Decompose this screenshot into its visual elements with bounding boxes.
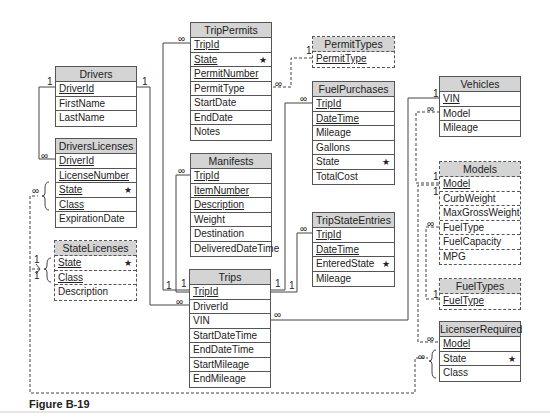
field-tripid[interactable]: TripId xyxy=(190,285,270,300)
field-state[interactable]: State★ xyxy=(313,155,394,170)
table-header: PermitTypes xyxy=(313,37,394,52)
card-one-fueltypes: 1 xyxy=(433,290,439,300)
field-mileage[interactable]: Mileage xyxy=(313,126,394,141)
field-delivereddatetime[interactable]: DeliveredDateTime xyxy=(191,242,271,257)
card-one-trips-b: 1 xyxy=(181,279,187,289)
field-enteredstate[interactable]: EnteredState★ xyxy=(313,257,394,272)
card-many-trips-vin: ∞ xyxy=(274,310,281,320)
bracket-statelicenses-state-class xyxy=(44,258,51,282)
card-many-driverslicenses: ∞ xyxy=(41,151,48,161)
table-vehicles[interactable]: Vehicles VIN Model Mileage xyxy=(439,76,521,137)
field-class[interactable]: Class xyxy=(56,198,136,213)
table-drivers-licenses[interactable]: DriversLicenses DriverId LicenseNumber S… xyxy=(55,138,137,228)
table-manifests[interactable]: Manifests TripId ItemNumber Description … xyxy=(190,153,272,257)
field-mpg[interactable]: MPG xyxy=(440,250,520,265)
card-one-trips-c: 1 xyxy=(275,279,281,289)
field-class[interactable]: Class xyxy=(440,366,520,381)
field-state[interactable]: State★ xyxy=(56,183,136,198)
field-datetime[interactable]: DateTime xyxy=(313,243,394,258)
field-mileage[interactable]: Mileage xyxy=(440,121,520,136)
table-header: StateLicenses xyxy=(55,241,136,256)
field-state[interactable]: State★ xyxy=(55,256,136,271)
card-many-trips-driverid: ∞ xyxy=(176,297,183,307)
field-state[interactable]: State★ xyxy=(440,352,520,367)
field-tripid[interactable]: TripId xyxy=(313,97,394,112)
field-gallons[interactable]: Gallons xyxy=(313,141,394,156)
table-header: DriversLicenses xyxy=(56,139,136,154)
card-one-drivers-right: 1 xyxy=(142,77,148,87)
field-tripid[interactable]: TripId xyxy=(313,228,394,243)
star-icon: ★ xyxy=(259,53,267,68)
star-icon: ★ xyxy=(508,352,516,367)
field-model[interactable]: Model xyxy=(440,177,520,192)
table-trips[interactable]: Trips TripId DriverId VIN StartDateTime … xyxy=(189,269,271,388)
table-trip-permits[interactable]: TripPermits TripId State★ PermitNumber P… xyxy=(190,22,272,141)
field-curbweight[interactable]: CurbWeight xyxy=(440,192,520,207)
card-one-trips-a: 1 xyxy=(166,281,172,291)
rel-drivers-driverslicenses xyxy=(39,87,55,159)
field-endmileage[interactable]: EndMileage xyxy=(190,372,270,387)
field-maxgrossweight[interactable]: MaxGrossWeight xyxy=(440,206,520,221)
table-models[interactable]: Models Model CurbWeight MaxGrossWeight F… xyxy=(439,161,521,265)
field-model[interactable]: Model xyxy=(440,107,520,122)
field-enddate[interactable]: EndDate xyxy=(191,111,271,126)
field-class[interactable]: Class xyxy=(55,271,136,286)
table-permit-types[interactable]: PermitTypes PermitType xyxy=(312,36,395,68)
field-description[interactable]: Description xyxy=(191,198,271,213)
table-trip-state-entries[interactable]: TripStateEntries TripId DateTime Entered… xyxy=(312,212,395,287)
field-state[interactable]: State★ xyxy=(191,53,271,68)
card-many-fuelpurchases: ∞ xyxy=(300,94,307,104)
card-one-statelicenses-a: 1 xyxy=(34,255,40,265)
card-many-trippermits-permittype: ∞ xyxy=(275,79,282,89)
card-many-tripstateentries: ∞ xyxy=(300,224,307,234)
divider xyxy=(0,411,550,413)
star-icon: ★ xyxy=(124,256,132,271)
field-lastname[interactable]: LastName xyxy=(56,111,136,126)
field-licensenumber[interactable]: LicenseNumber xyxy=(56,169,136,184)
field-startmileage[interactable]: StartMileage xyxy=(190,358,270,373)
card-many-manifests: ∞ xyxy=(178,166,185,176)
field-notes[interactable]: Notes xyxy=(191,125,271,140)
field-driverid[interactable]: DriverId xyxy=(56,154,136,169)
table-header: LicenserRequired xyxy=(440,322,520,337)
table-header: Drivers xyxy=(56,67,136,82)
card-one-statelicenses-b: 1 xyxy=(34,271,40,281)
table-state-licenses[interactable]: StateLicenses State★ Class Description xyxy=(54,240,137,301)
field-tripid[interactable]: TripId xyxy=(191,169,271,184)
table-drivers[interactable]: Drivers DriverId FirstName LastName xyxy=(55,66,137,127)
field-description[interactable]: Description xyxy=(55,285,136,300)
field-model[interactable]: Model xyxy=(440,337,520,352)
bracket-driverslicenses-state-class xyxy=(42,182,49,210)
card-many-licenserrequired-stateclass: ∞ xyxy=(418,352,425,362)
table-licenser-required[interactable]: LicenserRequired Model State★ Class xyxy=(439,321,521,382)
field-datetime[interactable]: DateTime xyxy=(313,112,394,127)
field-vin[interactable]: VIN xyxy=(440,92,520,107)
figure-caption: Figure B-19 xyxy=(29,398,90,410)
field-permitnumber[interactable]: PermitNumber xyxy=(191,67,271,82)
field-expirationdate[interactable]: ExpirationDate xyxy=(56,212,136,227)
field-driverid[interactable]: DriverId xyxy=(190,300,270,315)
field-fuelcapacity[interactable]: FuelCapacity xyxy=(440,235,520,250)
field-fueltype[interactable]: FuelType xyxy=(440,221,520,236)
field-permittype[interactable]: PermitType xyxy=(191,82,271,97)
star-icon: ★ xyxy=(382,257,390,272)
field-firstname[interactable]: FirstName xyxy=(56,97,136,112)
card-one-drivers-left: 1 xyxy=(47,77,53,87)
field-enddatetime[interactable]: EndDateTime xyxy=(190,343,270,358)
field-driverid[interactable]: DriverId xyxy=(56,82,136,97)
table-fuel-types[interactable]: FuelTypes FuelType xyxy=(439,278,521,310)
field-tripid[interactable]: TripId xyxy=(191,38,271,53)
field-permittype[interactable]: PermitType xyxy=(313,52,394,67)
field-destination[interactable]: Destination xyxy=(191,227,271,242)
table-header: Models xyxy=(440,162,520,177)
field-weight[interactable]: Weight xyxy=(191,213,271,228)
card-many-vehicles-model: ∞ xyxy=(427,104,434,114)
field-startdatetime[interactable]: StartDateTime xyxy=(190,329,270,344)
table-fuel-purchases[interactable]: FuelPurchases TripId DateTime Mileage Ga… xyxy=(312,81,395,185)
field-itemnumber[interactable]: ItemNumber xyxy=(191,184,271,199)
field-startdate[interactable]: StartDate xyxy=(191,96,271,111)
field-totalcost[interactable]: TotalCost xyxy=(313,170,394,185)
field-fueltype[interactable]: FuelType xyxy=(440,294,520,309)
field-vin[interactable]: VIN xyxy=(190,314,270,329)
field-mileage[interactable]: Mileage xyxy=(313,272,394,287)
